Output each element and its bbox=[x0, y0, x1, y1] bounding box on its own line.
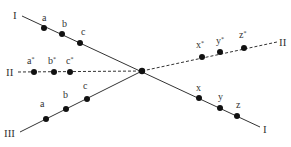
label-I-a: a bbox=[42, 12, 47, 23]
point-I-b bbox=[59, 31, 65, 37]
line-II-right bbox=[142, 42, 277, 71]
point-III-c bbox=[84, 96, 90, 102]
label-line-II-start: II bbox=[6, 66, 14, 78]
point-II-b bbox=[51, 69, 57, 75]
label-I-b: b bbox=[62, 18, 67, 29]
label-II-y: y* bbox=[216, 35, 224, 46]
point-III-a bbox=[43, 116, 49, 122]
diagram-canvas: I I II II III a b c x y z a* b* c* x* y*… bbox=[0, 0, 291, 147]
intersecting-lines-diagram: I I II II III a b c x y z a* b* c* x* y*… bbox=[0, 0, 291, 147]
label-line-I-end: I bbox=[263, 123, 267, 135]
label-I-c: c bbox=[81, 26, 86, 37]
label-line-I-start: I bbox=[13, 9, 17, 21]
point-II-y bbox=[217, 49, 223, 55]
label-II-b: b* bbox=[48, 55, 56, 66]
label-III-c: c bbox=[83, 80, 88, 91]
label-I-y: y bbox=[218, 91, 223, 102]
label-II-z: z* bbox=[239, 29, 246, 40]
label-III-b: b bbox=[63, 89, 68, 100]
point-II-z bbox=[241, 45, 247, 51]
point-I-a bbox=[41, 25, 47, 31]
point-III-b bbox=[63, 106, 69, 112]
point-II-c bbox=[67, 69, 73, 75]
point-II-a bbox=[31, 69, 37, 75]
label-II-c: c* bbox=[66, 55, 73, 66]
label-line-III-start: III bbox=[4, 127, 15, 139]
line-III bbox=[20, 71, 142, 132]
label-II-a: a* bbox=[27, 55, 34, 66]
point-I-c bbox=[77, 40, 83, 46]
intersection-point bbox=[139, 68, 145, 74]
point-I-z bbox=[234, 113, 240, 119]
label-line-II-end: II bbox=[279, 36, 287, 48]
point-I-x bbox=[196, 95, 202, 101]
label-I-z: z bbox=[236, 99, 241, 110]
label-III-a: a bbox=[40, 98, 45, 109]
point-II-x bbox=[199, 54, 205, 60]
point-I-y bbox=[217, 105, 223, 111]
label-I-x: x bbox=[196, 82, 201, 93]
label-II-x: x* bbox=[196, 39, 204, 50]
